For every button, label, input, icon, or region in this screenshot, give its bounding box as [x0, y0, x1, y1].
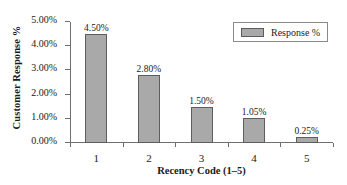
chart-legend: Response %: [233, 22, 328, 42]
x-tick-label: 1: [76, 152, 116, 164]
y-axis-title: Customer Response %: [11, 8, 22, 148]
bar-chart: Customer Response % 0.00%1.00%2.00%3.00%…: [0, 0, 347, 185]
y-tick: 4.00%: [65, 45, 70, 46]
bar: 0.25%: [296, 137, 318, 143]
x-tick: [280, 143, 281, 147]
y-tick-label: 2.00%: [31, 87, 57, 98]
x-tick: [228, 143, 229, 147]
y-tick-label: 4.00%: [31, 38, 57, 49]
bar-value-label: 0.25%: [281, 126, 333, 136]
x-tick-label: 5: [287, 152, 327, 164]
y-tick: 1.00%: [65, 118, 70, 119]
y-tick-label: 1.00%: [31, 111, 57, 122]
y-tick-label: 3.00%: [31, 62, 57, 73]
x-tick: [175, 143, 176, 147]
legend-label: Response %: [271, 27, 320, 38]
bar: 4.50%: [85, 34, 107, 143]
x-tick: [70, 143, 71, 147]
x-tick-label: 4: [234, 152, 274, 164]
y-tick-label: 0.00%: [31, 135, 57, 146]
bar: 1.05%: [243, 118, 265, 143]
x-tick-label: 2: [129, 152, 169, 164]
bar: 1.50%: [191, 107, 213, 143]
bar: 2.80%: [138, 75, 160, 143]
bar-value-label: 1.05%: [228, 107, 280, 117]
y-tick: 5.00%: [65, 21, 70, 22]
x-tick-label: 3: [182, 152, 222, 164]
bar-value-label: 1.50%: [176, 96, 228, 106]
y-tick: 3.00%: [65, 69, 70, 70]
y-tick: 2.00%: [65, 94, 70, 95]
legend-swatch-icon: [241, 28, 264, 37]
bar-value-label: 2.80%: [123, 64, 175, 74]
y-axis-line: [70, 22, 71, 143]
x-tick: [123, 143, 124, 147]
y-tick-label: 5.00%: [31, 14, 57, 25]
x-axis-title: Recency Code (1–5): [70, 165, 333, 176]
bar-value-label: 4.50%: [70, 23, 122, 33]
x-tick: [333, 143, 334, 147]
